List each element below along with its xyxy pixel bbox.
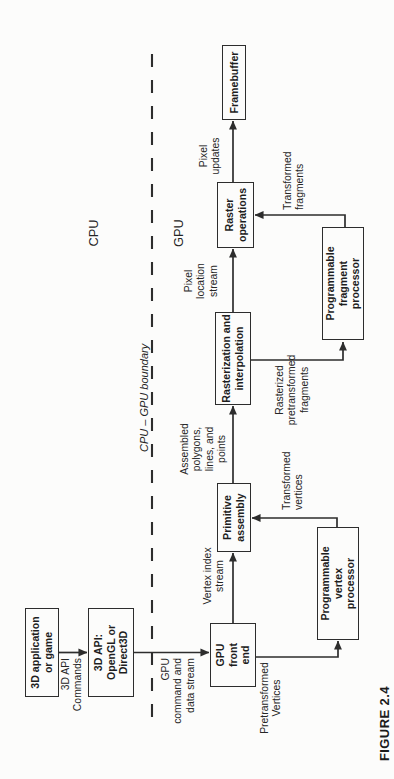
label-rasterized-pretransformed-fragments: Rasterized pretransformed fragments (274, 351, 311, 429)
node-raster-operations: Raster operations (217, 182, 254, 248)
label-gpu-command-data-stream: GPU command and data stream (160, 658, 197, 738)
label-transformed-vertices: Transformed vertices (281, 438, 306, 510)
label-pixel-location-stream: Pixel location stream (183, 249, 220, 313)
label-pixel-updates: Pixel updates (198, 124, 223, 188)
node-rasterization: Rasterization and interpolation (215, 312, 251, 405)
figure-page: 3D application or game 3D API: OpenGL or… (0, 0, 394, 779)
label-vertex-index-stream: Vertex index stream (202, 536, 227, 616)
label-cpu-zone: CPU (86, 211, 101, 255)
node-framebuffer: Framebuffer (222, 45, 246, 120)
label-3d-api-commands: 3D API Commands (60, 658, 85, 728)
label-cpu-gpu-boundary: CPU – GPU boundary (138, 346, 150, 452)
label-gpu-zone: GPU (171, 211, 186, 255)
label-assembled-polygons: Assembled polygons, lines, and points (179, 418, 229, 480)
node-3d-application: 3D application or game (25, 608, 59, 697)
pipeline-diagram: 3D application or game 3D API: OpenGL or… (0, 0, 394, 779)
node-gpu-front-end: GPU front end (210, 623, 256, 687)
label-pretransformed-vertices: Pretransformed Vertices (259, 655, 284, 741)
figure-caption: FIGURE 2.4 (377, 686, 392, 761)
arrow-fragment-processor-to-rop (255, 215, 345, 227)
rotated-figure: 3D application or game 3D API: OpenGL or… (0, 0, 394, 779)
node-programmable-vertex-processor: Programmable vertex processor (317, 527, 359, 640)
node-3d-api: 3D API: OpenGL or Direct3D (88, 608, 134, 697)
arrow-vertex-processor-to-primitive (252, 518, 337, 527)
node-programmable-fragment-processor: Programmable fragment processor (322, 227, 364, 340)
label-transformed-fragments: Transformed fragments (282, 138, 307, 210)
